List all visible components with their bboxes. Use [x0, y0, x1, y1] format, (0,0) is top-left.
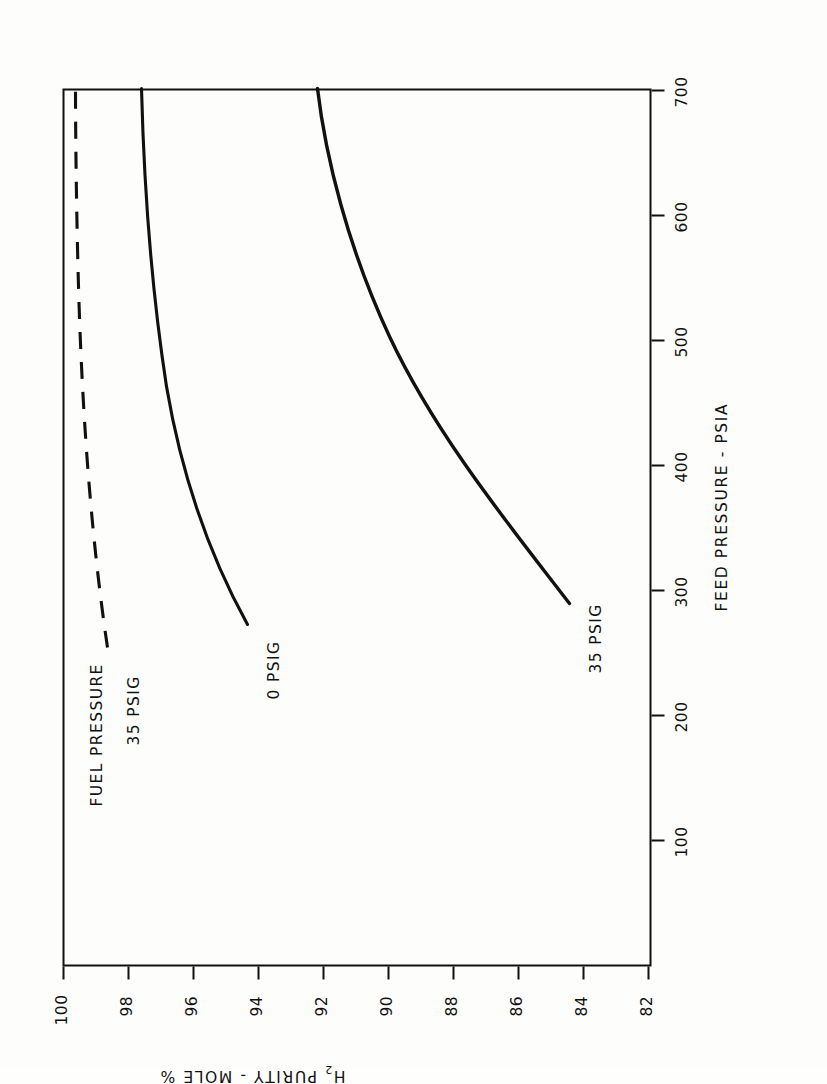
ytick-label-90: 90: [377, 995, 395, 1016]
ytick-84: [582, 966, 584, 979]
xtick-label-700: 700: [672, 76, 690, 107]
ytick-label-92: 92: [312, 995, 330, 1016]
xtick-label-500: 500: [672, 326, 690, 357]
xtick-label-400: 400: [672, 451, 690, 482]
xtick-label-300: 300: [672, 576, 690, 607]
y-axis-title-subscript: 2: [323, 1063, 332, 1076]
xtick-label-100: 100: [672, 826, 690, 857]
y-axis-title-base: H: [332, 1066, 345, 1084]
ytick-label-82: 82: [637, 995, 655, 1016]
xtick-label-200: 200: [672, 701, 690, 732]
ytick-88: [452, 966, 454, 979]
ytick-label-100: 100: [52, 994, 70, 1025]
xtick-700: [651, 89, 664, 91]
ytick-98: [127, 966, 129, 979]
y-axis-title: H2 PURITY - MOLE %: [159, 1063, 345, 1084]
ytick-92: [322, 966, 324, 979]
ytick-label-94: 94: [247, 995, 265, 1016]
xtick-600: [651, 214, 664, 216]
annotation-35-psig: 35 PSIG: [586, 603, 604, 673]
xtick-300: [651, 589, 664, 591]
ytick-94: [257, 966, 259, 979]
ytick-86: [517, 966, 519, 979]
y-axis-title-rest: PURITY - MOLE %: [159, 1066, 324, 1084]
ytick-90: [387, 966, 389, 979]
ytick-label-98: 98: [117, 995, 135, 1016]
ytick-label-88: 88: [442, 995, 460, 1016]
annotation-fuel-35-psig: 35 PSIG: [124, 675, 142, 745]
ytick-96: [192, 966, 194, 979]
xtick-100: [651, 839, 664, 841]
ytick-82: [647, 966, 649, 979]
annotation-0-psig: 0 PSIG: [264, 640, 282, 699]
x-axis-title: FEED PRESSURE - PSIA: [712, 402, 730, 611]
ytick-label-86: 86: [507, 995, 525, 1016]
series-35-path: [317, 88, 569, 603]
ytick-label-96: 96: [182, 995, 200, 1016]
ytick-100: [62, 966, 64, 979]
xtick-label-600: 600: [672, 201, 690, 232]
ytick-label-84: 84: [572, 995, 590, 1016]
annotation-fuel-pressure: FUEL PRESSURE: [87, 663, 105, 806]
xtick-400: [651, 464, 664, 466]
xtick-200: [651, 714, 664, 716]
series-0-path: [141, 88, 247, 624]
xtick-500: [651, 339, 664, 341]
series-fuel-35-path: [75, 88, 107, 647]
